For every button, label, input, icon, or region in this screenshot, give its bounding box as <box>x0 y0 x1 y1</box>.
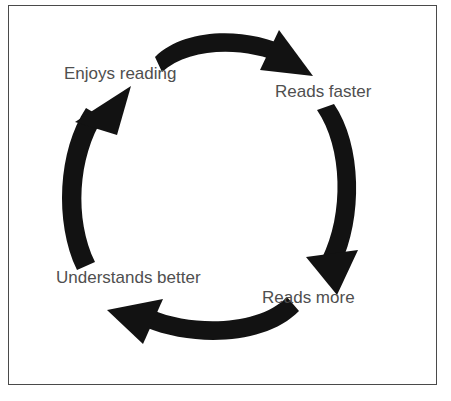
cycle-diagram-svg <box>0 0 451 401</box>
cycle-node-label-enjoys-reading: Enjoys reading <box>64 65 176 83</box>
arrow-enjoys-reading-to-reads-faster <box>155 30 313 76</box>
figure-root: Enjoys reading Reads faster Reads more U… <box>0 0 451 401</box>
arrow-reads-faster-to-reads-more <box>306 104 358 295</box>
cycle-node-label-reads-faster: Reads faster <box>275 83 371 101</box>
cycle-node-label-reads-more: Reads more <box>262 289 355 307</box>
arrow-understands-better-to-enjoys-reading <box>62 86 131 270</box>
cycle-node-label-understands-better: Understands better <box>56 269 201 287</box>
